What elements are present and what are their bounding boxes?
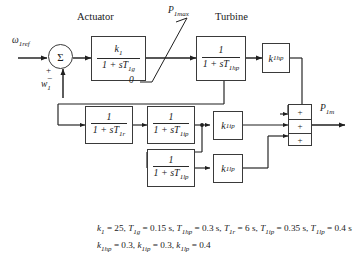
param-t1ip: T1ip = 0.35 s	[260, 223, 306, 233]
output-label-p1m: P1m	[320, 104, 334, 116]
reheat-numerator: 1	[103, 112, 116, 123]
ip-den-pre: 1 + s	[153, 124, 174, 135]
limiter-symbol	[140, 18, 187, 82]
block-lp-transfer-function: 1 1 + sT1lp	[147, 149, 195, 187]
section-label-actuator: Actuator	[77, 12, 114, 23]
param-k1lp: k1lp = 0.4	[176, 240, 210, 250]
param-t1g: T1g = 0.15 s	[128, 223, 172, 233]
ip-den-sub: 1ip	[180, 130, 189, 138]
limiter-upper-label: P1max	[168, 6, 189, 18]
reheat-denominator: 1 + sT1r	[89, 125, 129, 138]
k1hp-sub: 1hp	[273, 54, 284, 62]
lp-numerator: 1	[165, 155, 178, 166]
section-label-turbine: Turbine	[215, 12, 248, 23]
summing-junction: Σ	[48, 44, 73, 69]
omega-ref-sub: 1ref	[19, 40, 30, 48]
hp-denominator: 1 + sT1hp	[199, 59, 244, 72]
reheat-den-sub: 1r	[119, 130, 125, 138]
actuator-num-sub: 1	[119, 49, 123, 57]
param-k1hp: k1hp = 0.3	[97, 240, 133, 250]
ip-denominator: 1 + sT1ip	[149, 125, 192, 138]
sigma-symbol: Σ	[57, 51, 63, 63]
block-reheat-transfer-function: 1 1 + sT1r	[85, 106, 133, 144]
adder-sign-bottom: +	[289, 133, 311, 147]
actuator-denominator: 1 + sT1g	[98, 60, 139, 73]
block-output-adder: + + +	[288, 104, 312, 146]
block-diagram-figure: Actuator Turbine ω1ref w1 Σ + − k1 1 + s…	[0, 0, 364, 271]
adder-sign-top: +	[289, 105, 311, 119]
param-t1r: T1r = 6 s	[224, 223, 256, 233]
block-gain-k1hp: k1hp	[262, 43, 290, 73]
hp-numerator: 1	[215, 45, 228, 56]
k1lp-sub: 1lp	[226, 165, 235, 173]
block-ip-transfer-function: 1 1 + sT1ip	[147, 106, 195, 144]
block-gain-k1lp: k1lp	[213, 154, 243, 183]
block-gain-k1ip: k1ip	[213, 111, 243, 140]
hp-den-sub: 1hp	[229, 64, 240, 72]
actuator-den-sub: 1g	[128, 65, 135, 73]
k1ip-sub: 1ip	[226, 122, 235, 130]
param-t1hp: T1hp = 0.3 s	[177, 223, 220, 233]
omega-ref-base: ω	[12, 35, 19, 45]
param-t1lp: T1lp = 0.4 s	[311, 223, 352, 233]
block-hp-transfer-function: 1 1 + sT1hp	[196, 36, 246, 81]
p1m-sub: 1m	[326, 108, 335, 116]
summing-sign-minus: −	[47, 74, 52, 83]
param-k1ip: k1ip = 0.3	[137, 240, 171, 250]
lp-den-sub: 1lp	[180, 173, 189, 181]
parameter-line-2: k1hp = 0.3, k1ip = 0.3, k1lp = 0.4	[97, 238, 211, 255]
ip-numerator: 1	[165, 112, 178, 123]
p1max-sub: 1max	[174, 10, 189, 18]
input-label-omega-ref: ω1ref	[12, 36, 30, 48]
adder-sign-middle: +	[289, 119, 311, 133]
actuator-den-pre: 1 + s	[102, 59, 123, 70]
w1-sub: 1	[47, 84, 51, 92]
parameter-line-1: k1 = 25, T1g = 0.15 s, T1hp = 0.3 s, T1r…	[97, 221, 352, 238]
block-actuator-transfer-function: k1 1 + sT1g	[91, 36, 146, 81]
lp-den-pre: 1 + s	[153, 167, 174, 178]
param-k1: k1 = 25	[97, 223, 124, 233]
hp-den-pre: 1 + s	[203, 58, 224, 69]
reheat-den-pre: 1 + s	[93, 124, 114, 135]
lp-denominator: 1 + sT1lp	[149, 168, 192, 181]
limiter-lower-label: 0	[129, 76, 134, 86]
actuator-numerator: k1	[111, 44, 127, 57]
